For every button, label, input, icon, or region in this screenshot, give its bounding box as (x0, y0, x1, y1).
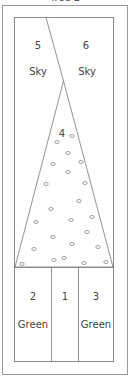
ornament-circle (44, 183, 48, 186)
ornament-circle (69, 219, 73, 222)
ornament-circle (51, 163, 55, 166)
ornament-circle (55, 141, 59, 144)
region-3-color-label: Green (76, 319, 116, 331)
region-5-color-label: Sky (18, 66, 58, 78)
ornament-circle (49, 208, 53, 211)
region-4-number: 4 (42, 128, 82, 140)
ornament-circle (90, 216, 94, 219)
region-2-color-label: Green (13, 319, 53, 331)
ornament-circle (20, 263, 24, 266)
ornament-circle (77, 200, 81, 203)
ornament-circle (79, 161, 83, 164)
ornament-circle (51, 236, 55, 239)
ornament-circle (83, 182, 87, 185)
ornament-circle (52, 259, 56, 262)
region-6-color-label: Sky (67, 66, 107, 78)
ornament-circle (34, 221, 38, 224)
region-5-number: 5 (18, 40, 58, 52)
region-3-number: 3 (76, 291, 116, 303)
ornament-circle (82, 262, 86, 265)
tree-triangle (15, 81, 113, 267)
region-6-number: 6 (66, 40, 106, 52)
ornament-circle (62, 257, 66, 260)
ornament-circle (70, 243, 74, 246)
ornament-circle (104, 261, 108, 264)
ornament-circle (85, 231, 89, 234)
ornament-circle (66, 171, 70, 174)
ornament-circle (96, 246, 100, 249)
ornament-circle (66, 152, 70, 155)
ornament-circle (32, 248, 36, 251)
